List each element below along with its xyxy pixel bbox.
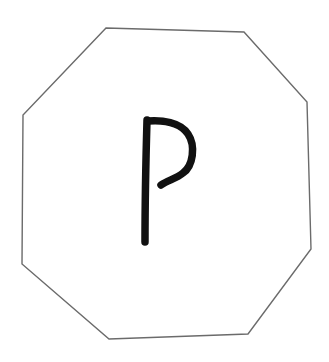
- letter-p-stem: [145, 120, 147, 242]
- octagon-diagram: [0, 0, 329, 362]
